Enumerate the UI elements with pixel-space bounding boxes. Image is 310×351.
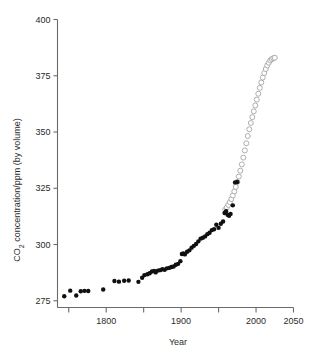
open-data-point: [238, 168, 243, 173]
x-axis-title: Year: [169, 337, 187, 347]
filled-data-point: [178, 259, 182, 263]
filled-data-point: [235, 180, 239, 184]
filled-data-point: [79, 289, 83, 293]
open-data-point: [257, 85, 262, 90]
open-data-point: [239, 162, 244, 167]
open-data-point: [251, 109, 256, 114]
open-data-point: [259, 80, 264, 85]
filled-data-point: [74, 293, 78, 297]
co2-concentration-chart: 275300325350375400 1800190020002050 Year…: [0, 0, 310, 351]
open-data-point: [233, 184, 238, 189]
open-data-point: [244, 141, 249, 146]
filled-data-point: [216, 226, 220, 230]
filled-data-point: [82, 289, 86, 293]
chart-canvas: 275300325350375400 1800190020002050 Year…: [0, 0, 310, 351]
filled-data-point: [221, 219, 225, 223]
filled-data-point: [101, 287, 105, 291]
filled-data-point: [68, 288, 72, 292]
filled-data-point: [117, 279, 121, 283]
y-axis-title: CO2 concentration/ppm (by volume): [12, 118, 25, 261]
y-axis-ticks: 275300325350375400: [35, 15, 57, 306]
y-tick-label: 275: [35, 296, 50, 306]
x-tick-label: 1900: [171, 316, 191, 326]
open-data-point: [248, 121, 253, 126]
filled-data-point: [228, 212, 232, 216]
filled-data-point: [112, 279, 116, 283]
filled-data-point: [62, 294, 66, 298]
y-tick-label: 375: [35, 71, 50, 81]
filled-data-point: [231, 203, 235, 207]
open-data-point: [245, 134, 250, 139]
filled-data-point: [86, 289, 90, 293]
open-data-point: [247, 127, 252, 132]
y-tick-label: 400: [35, 15, 50, 25]
y-tick-label: 325: [35, 183, 50, 193]
svg-text:CO2 concentration/ppm (by volu: CO2 concentration/ppm (by volume): [12, 118, 25, 261]
x-axis-ticks: 1800190020002050: [69, 308, 304, 326]
open-data-point: [253, 103, 258, 108]
filled-circle-series: [62, 180, 239, 299]
y-axis-title-suffix: concentration/ppm (by volume): [12, 118, 22, 244]
x-tick-label: 1800: [96, 316, 116, 326]
y-tick-label: 300: [35, 240, 50, 250]
open-data-point: [242, 148, 247, 153]
filled-data-point: [122, 279, 126, 283]
x-tick-label: 2050: [283, 316, 303, 326]
open-data-point: [241, 155, 246, 160]
open-circle-series: [223, 55, 277, 212]
open-data-point: [236, 174, 241, 179]
open-data-point: [272, 55, 277, 60]
open-data-point: [250, 115, 255, 120]
x-tick-label: 2000: [246, 316, 266, 326]
filled-data-point: [126, 278, 130, 282]
open-data-point: [254, 97, 259, 102]
open-data-point: [256, 91, 261, 96]
filled-data-point: [212, 227, 216, 231]
y-axis-title-prefix: CO: [12, 248, 22, 262]
y-tick-label: 350: [35, 127, 50, 137]
filled-data-point: [136, 280, 140, 284]
